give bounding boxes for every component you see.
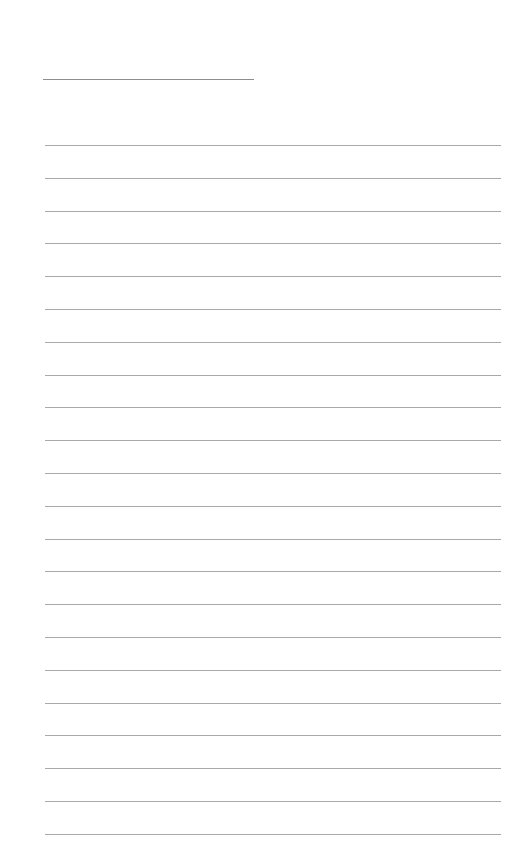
ruled-line (45, 211, 501, 212)
header-name-line (43, 79, 254, 80)
ruled-line (45, 145, 501, 146)
ruled-line (45, 768, 501, 769)
ruled-line (45, 539, 501, 540)
ruled-line (45, 637, 501, 638)
lined-paper-page (0, 0, 525, 863)
ruled-line (45, 473, 501, 474)
ruled-line (45, 670, 501, 671)
ruled-line (45, 440, 501, 441)
ruled-line (45, 801, 501, 802)
ruled-line (45, 506, 501, 507)
ruled-line (45, 604, 501, 605)
ruled-line (45, 735, 501, 736)
ruled-line (45, 243, 501, 244)
ruled-line (45, 571, 501, 572)
ruled-line (45, 407, 501, 408)
ruled-line (45, 834, 501, 835)
ruled-line (45, 309, 501, 310)
ruled-line (45, 178, 501, 179)
ruled-line (45, 703, 501, 704)
ruled-line (45, 342, 501, 343)
ruled-line (45, 375, 501, 376)
ruled-line (45, 276, 501, 277)
